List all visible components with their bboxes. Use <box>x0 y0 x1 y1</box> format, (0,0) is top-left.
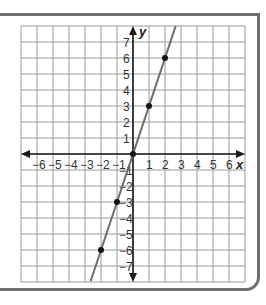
y-tick-label: −3 <box>119 196 133 210</box>
x-tick-label: −2 <box>96 158 110 172</box>
coordinate-plane: −6−5−4−3−2−1123456−7−6−5−4−3−2−11234567 … <box>0 0 266 305</box>
x-tick-label: 4 <box>194 158 201 172</box>
y-tick-label: −5 <box>119 228 133 242</box>
x-tick-label: 3 <box>178 158 185 172</box>
y-tick-label: −7 <box>119 260 133 274</box>
x-tick-label: 1 <box>146 158 153 172</box>
x-tick-label: −4 <box>64 158 78 172</box>
y-tick-label: 5 <box>123 68 130 82</box>
x-tick-label: −5 <box>48 158 62 172</box>
y-tick-label: 4 <box>123 84 130 98</box>
x-tick-label: 2 <box>162 158 169 172</box>
y-tick-label: 3 <box>123 100 130 114</box>
y-tick-label: −4 <box>119 212 133 226</box>
data-point <box>162 55 168 61</box>
data-point <box>114 199 120 205</box>
x-axis-label: x <box>235 157 244 172</box>
x-arrow-left-icon <box>21 150 30 158</box>
y-arrow-up-icon <box>129 26 137 35</box>
y-tick-label: 2 <box>123 116 130 130</box>
x-tick-label: 6 <box>226 158 233 172</box>
y-tick-label: 1 <box>123 132 130 146</box>
x-tick-label: 5 <box>210 158 217 172</box>
x-tick-label: −6 <box>32 158 46 172</box>
data-point <box>146 103 152 109</box>
data-point <box>98 247 104 253</box>
y-tick-label: 6 <box>123 52 130 66</box>
y-arrow-down-icon <box>129 273 137 282</box>
y-axis-label: y <box>138 24 147 39</box>
x-tick-label: −3 <box>80 158 94 172</box>
data-point <box>130 151 136 157</box>
y-tick-label: −6 <box>119 244 133 258</box>
y-tick-label: 7 <box>123 36 130 50</box>
